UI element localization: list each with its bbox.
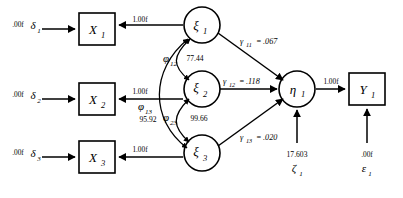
label-gamma12-symbol: γ bbox=[223, 77, 227, 86]
label-xi1-subscript: 1 bbox=[203, 26, 207, 36]
label-eta1: η bbox=[290, 82, 296, 97]
label-xi3: ξ bbox=[193, 144, 199, 159]
label-epsilon1: ε bbox=[362, 162, 367, 174]
label-zeta1: ζ bbox=[292, 162, 298, 175]
value-gamma11: .067 bbox=[263, 37, 278, 46]
diagram-canvas: ξ 1 ξ 2 ξ 3 η 1 X 1 X 2 X 3 Y 1 .00f δ 1… bbox=[0, 0, 403, 198]
node-circle-eta1 bbox=[279, 71, 315, 107]
label-delta2: δ bbox=[30, 89, 36, 101]
label-x1: X bbox=[88, 22, 98, 37]
label-gamma13-symbol: γ bbox=[240, 133, 244, 142]
label-delta3-subscript: 3 bbox=[36, 155, 41, 163]
label-phi23-symbol: φ bbox=[163, 111, 169, 123]
label-phi13-symbol: φ bbox=[138, 100, 144, 112]
label-epsilon1-subscript: 1 bbox=[368, 170, 372, 178]
node-box-x1 bbox=[79, 13, 115, 45]
label-x3: X bbox=[88, 150, 98, 165]
label-xi3-subscript: 3 bbox=[202, 153, 207, 163]
label-delta3: δ bbox=[30, 147, 36, 159]
label-gamma12-subscript: 12 bbox=[229, 81, 235, 88]
label-phi12-subscript: 12 bbox=[170, 60, 178, 68]
value-phi13: 95.92 bbox=[139, 115, 156, 124]
value-lambda-x3: 1.00f bbox=[132, 145, 148, 154]
value-delta1: .00f bbox=[12, 20, 24, 29]
label-group-gamma13: γ 13 = .020 bbox=[240, 133, 277, 144]
label-group-phi12: φ 12 77.44 bbox=[163, 52, 204, 68]
label-delta1-subscript: 1 bbox=[37, 27, 41, 35]
label-xi1: ξ bbox=[193, 18, 199, 33]
label-group-phi23: φ 23 99.66 bbox=[163, 111, 208, 127]
node-box-x3 bbox=[79, 141, 115, 173]
node-box-y1 bbox=[349, 73, 385, 105]
value-phi12: 77.44 bbox=[186, 54, 203, 63]
label-group-gamma11: γ 11 = .067 bbox=[240, 37, 278, 48]
label-y1-subscript: 1 bbox=[371, 90, 375, 100]
label-eta1-subscript: 1 bbox=[301, 89, 305, 99]
label-gamma11-subscript: 11 bbox=[246, 41, 252, 48]
label-x2: X bbox=[88, 92, 98, 107]
value-delta3: .00f bbox=[12, 148, 24, 157]
label-gamma11-symbol: γ bbox=[240, 37, 244, 46]
sem-path-diagram: ξ 1 ξ 2 ξ 3 η 1 X 1 X 2 X 3 Y 1 .00f δ 1… bbox=[0, 0, 403, 198]
label-delta2-subscript: 2 bbox=[37, 97, 41, 105]
edge-phi23-covariance bbox=[176, 99, 189, 142]
value-gamma13: .020 bbox=[263, 133, 277, 142]
value-zeta1: 17.603 bbox=[287, 150, 308, 159]
value-delta2: .00f bbox=[12, 90, 24, 99]
label-x1-subscript: 1 bbox=[101, 30, 105, 40]
label-group-gamma12: γ 12 = .118 bbox=[223, 77, 260, 88]
value-gamma12: .118 bbox=[246, 77, 260, 86]
label-delta1: δ bbox=[30, 19, 36, 31]
label-phi23-subscript: 23 bbox=[170, 119, 178, 127]
label-x3-subscript: 3 bbox=[100, 158, 105, 168]
label-gamma11-equals: = bbox=[256, 37, 262, 46]
label-xi2: ξ bbox=[193, 80, 199, 95]
value-lambda-x1: 1.00f bbox=[132, 15, 148, 24]
label-group-phi13: φ 13 95.92 bbox=[138, 100, 157, 124]
value-lambda-x2: 1.00f bbox=[132, 87, 148, 96]
label-gamma13-subscript: 13 bbox=[246, 137, 252, 144]
label-gamma13-equals: = bbox=[256, 133, 262, 142]
value-epsilon1: .00f bbox=[361, 150, 373, 159]
node-circle-xi1 bbox=[184, 7, 220, 43]
label-zeta1-subscript: 1 bbox=[299, 170, 303, 178]
node-box-x2 bbox=[79, 83, 115, 115]
value-phi23: 99.66 bbox=[190, 114, 207, 123]
label-phi12-symbol: φ bbox=[163, 52, 169, 64]
label-gamma12-equals: = bbox=[239, 77, 245, 86]
value-lambda-y1: 1.00f bbox=[323, 77, 339, 86]
